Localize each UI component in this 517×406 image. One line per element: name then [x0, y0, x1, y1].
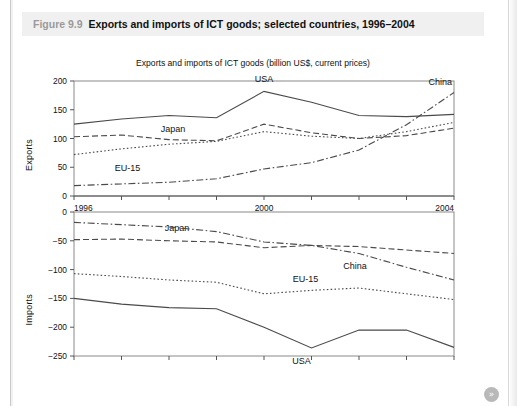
series-label-japan: Japan — [161, 124, 186, 134]
next-page-button[interactable]: » — [484, 387, 499, 402]
line-chart-svg: 050100150200199620002004USAJapanEU-15Chi… — [22, 44, 484, 384]
series-line-eu-15 — [74, 274, 454, 300]
series-label-eu-15: EU-15 — [115, 163, 141, 173]
page-gutter-rule — [10, 0, 11, 406]
svg-text:−200: −200 — [48, 322, 67, 332]
figure-container: Exports and imports of ICT goods (billio… — [22, 44, 484, 384]
page-right-rule — [508, 0, 509, 406]
svg-text:−150: −150 — [48, 293, 67, 303]
series-line-japan — [74, 239, 454, 253]
series-label-japan: Japan — [165, 223, 190, 233]
figure-caption-text: Exports and imports of ICT goods; select… — [88, 18, 414, 30]
svg-text:50: 50 — [58, 162, 68, 172]
series-label-china: China — [343, 261, 367, 271]
series-label-usa: USA — [255, 74, 274, 84]
svg-text:0: 0 — [62, 191, 67, 201]
series-line-eu-15 — [74, 122, 454, 154]
figure-number: Figure 9.9 — [33, 18, 83, 30]
svg-text:−100: −100 — [48, 265, 67, 275]
series-label-usa: USA — [292, 356, 311, 366]
series-label-eu-15: EU-15 — [293, 274, 319, 284]
svg-text:150: 150 — [53, 105, 67, 115]
series-line-usa — [74, 91, 454, 124]
figure-caption: Figure 9.9 Exports and imports of ICT go… — [33, 17, 415, 31]
svg-text:−50: −50 — [53, 236, 68, 246]
series-line-japan — [74, 124, 454, 141]
page-gutter-shade — [11, 0, 13, 406]
series-line-china — [74, 222, 454, 280]
book-page: Figure 9.9 Exports and imports of ICT go… — [0, 0, 517, 406]
svg-text:200: 200 — [53, 76, 67, 86]
svg-text:−250: −250 — [48, 351, 67, 361]
series-label-china: China — [428, 77, 452, 87]
series-line-usa — [74, 298, 454, 348]
page-right-edge — [509, 0, 517, 406]
svg-text:100: 100 — [53, 134, 67, 144]
svg-text:0: 0 — [62, 207, 67, 217]
